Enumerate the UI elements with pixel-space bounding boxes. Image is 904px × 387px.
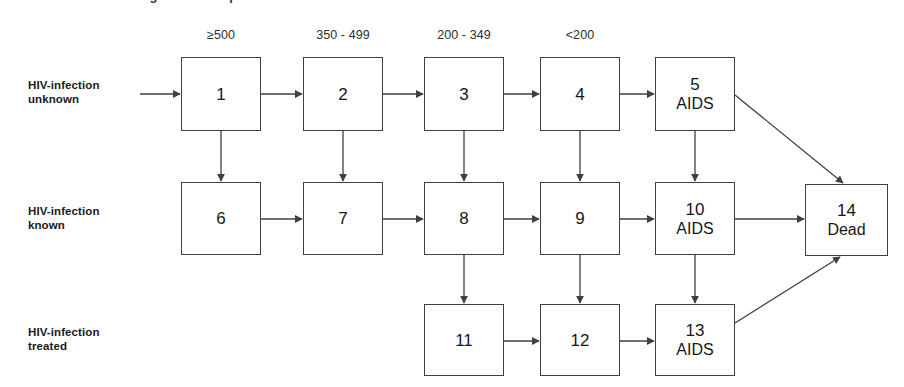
- column-header-cd4-350-499: 350 - 499: [303, 28, 383, 42]
- state-node-9[interactable]: 9: [540, 182, 620, 255]
- column-header-cd4-200-349: 200 - 349: [424, 28, 504, 42]
- state-node-id: 9: [575, 209, 584, 228]
- state-node-4[interactable]: 4: [540, 57, 620, 131]
- state-node-1[interactable]: 1: [181, 57, 261, 131]
- state-node-7[interactable]: 7: [303, 182, 383, 255]
- state-node-5-aids[interactable]: 5 AIDS: [655, 57, 735, 131]
- row-label-hiv-infection-unknown: HIV-infection unknown: [28, 78, 100, 106]
- state-node-6[interactable]: 6: [181, 182, 261, 255]
- state-node-id: 8: [459, 209, 468, 228]
- state-node-10-aids[interactable]: 10 AIDS: [655, 182, 735, 255]
- row-label-line2: unknown: [28, 93, 79, 105]
- state-node-id: 7: [338, 209, 347, 228]
- edge-5-to-14-diagonal: [735, 95, 843, 183]
- state-node-id: 12: [571, 331, 590, 350]
- state-node-12[interactable]: 12: [540, 304, 620, 376]
- row-label-line2: treated: [28, 340, 67, 352]
- state-node-id: 3: [459, 85, 468, 104]
- state-node-2[interactable]: 2: [303, 57, 383, 131]
- row-label-line1: HIV-infection: [28, 326, 100, 338]
- state-node-id: 10: [686, 200, 705, 219]
- state-node-id: 14: [837, 201, 856, 220]
- state-node-sublabel: AIDS: [676, 340, 713, 359]
- diagram-canvas: length of time spent in a treatment: [0, 0, 904, 387]
- state-node-sublabel: Dead: [827, 220, 865, 239]
- row-label-line2: known: [28, 219, 65, 231]
- state-node-14-dead[interactable]: 14 Dead: [805, 184, 888, 256]
- state-node-11[interactable]: 11: [424, 304, 504, 376]
- state-node-8[interactable]: 8: [424, 182, 504, 255]
- state-node-sublabel: AIDS: [676, 219, 713, 238]
- state-node-id: 1: [216, 85, 225, 104]
- state-node-id: 5: [690, 75, 699, 94]
- state-node-13-aids[interactable]: 13 AIDS: [655, 304, 735, 376]
- edge-13-to-14-diagonal: [735, 257, 840, 323]
- column-header-cd4-lt200: <200: [540, 28, 620, 42]
- state-node-3[interactable]: 3: [424, 57, 504, 131]
- state-node-id: 11: [455, 331, 473, 350]
- state-node-sublabel: AIDS: [676, 94, 713, 113]
- row-label-hiv-infection-treated: HIV-infection treated: [28, 325, 100, 353]
- state-node-id: 4: [575, 85, 584, 104]
- row-label-line1: HIV-infection: [28, 205, 100, 217]
- state-node-id: 13: [686, 321, 705, 340]
- state-node-id: 2: [338, 85, 347, 104]
- row-label-hiv-infection-known: HIV-infection known: [28, 204, 100, 232]
- state-node-id: 6: [216, 209, 225, 228]
- row-label-line1: HIV-infection: [28, 79, 100, 91]
- column-header-cd4-ge500: ≥500: [181, 28, 261, 42]
